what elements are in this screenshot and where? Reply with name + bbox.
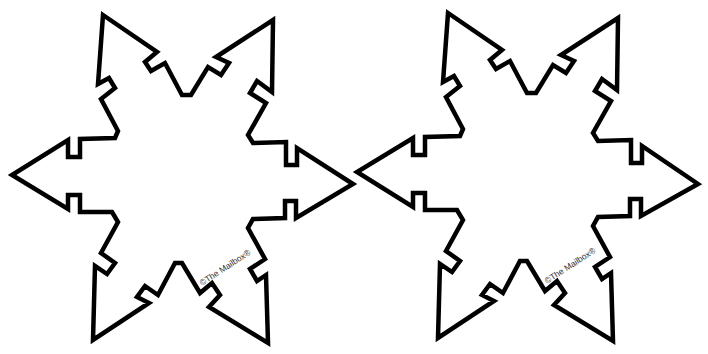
snowflake-right-outline xyxy=(357,13,698,341)
snowflake-cutouts: ©The Mailbox® ©The Mailbox® xyxy=(0,0,708,354)
snowflake-right: ©The Mailbox® xyxy=(357,13,698,341)
snowflake-left-outline xyxy=(12,15,353,343)
snowflake-pattern-sheet: ©The Mailbox® ©The Mailbox® xyxy=(0,0,708,354)
snowflake-left: ©The Mailbox® xyxy=(12,15,353,343)
